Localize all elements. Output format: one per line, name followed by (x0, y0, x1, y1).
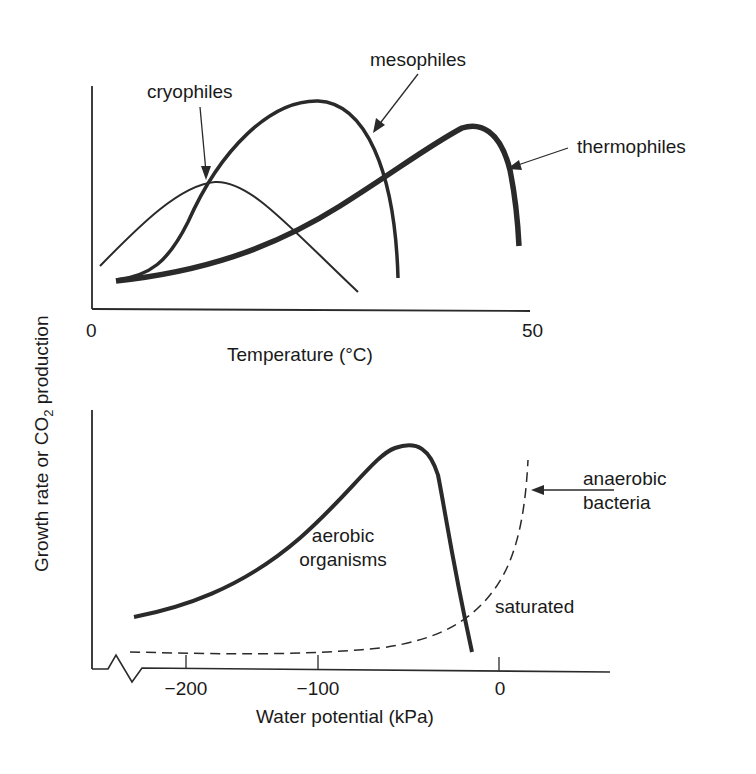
anaerobic-arrowhead-icon (531, 485, 544, 495)
top-panel: cryophiles mesophiles thermophiles 0 50 … (86, 49, 686, 365)
bottom-xtick-minus200: −200 (165, 678, 208, 699)
aerobic-label-line2: organisms (299, 549, 387, 570)
cryophiles-label: cryophiles (147, 81, 233, 102)
mesophiles-label: mesophiles (370, 49, 466, 70)
figure: cryophiles mesophiles thermophiles 0 50 … (0, 0, 756, 774)
aerobic-label-line1: aerobic (312, 525, 374, 546)
mesophiles-arrow (378, 74, 418, 126)
mesophiles-curve (116, 101, 398, 280)
top-xtick-0: 0 (86, 320, 97, 341)
thermophiles-label: thermophiles (577, 136, 686, 157)
saturated-label: saturated (495, 596, 574, 617)
anaerobic-label-line2: bacteria (583, 492, 651, 513)
thermophiles-arrow (515, 148, 568, 166)
bottom-xtick-0: 0 (495, 678, 506, 699)
bottom-xtick-minus100: −100 (297, 678, 340, 699)
bottom-x-axis-label: Water potential (kPa) (256, 706, 434, 727)
y-axis-label: Growth rate or CO2 production (31, 316, 56, 572)
thermophiles-curve (116, 126, 519, 281)
top-x-axis-label: Temperature (°C) (227, 344, 373, 365)
bottom-panel: aerobic organisms anaerobic bacteria sat… (92, 410, 666, 727)
cryophiles-arrow (200, 107, 206, 172)
top-xtick-50: 50 (522, 320, 543, 341)
top-x-axis (92, 309, 530, 311)
anaerobic-label-line1: anaerobic (583, 468, 666, 489)
